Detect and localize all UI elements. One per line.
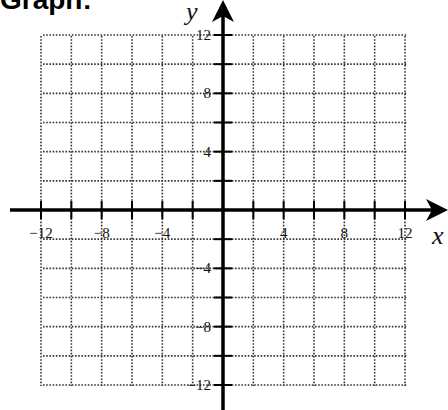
- x-tick-label: −12: [29, 225, 52, 241]
- y-tick-label: −4: [195, 260, 211, 276]
- y-tick-label: 4: [204, 144, 212, 160]
- axes: [10, 0, 448, 410]
- coordinate-plane: −12−8−448121284−4−8−12 x y: [0, 0, 448, 410]
- y-tick-label: −8: [195, 319, 211, 335]
- y-tick-label: −12: [188, 377, 211, 393]
- y-tick-label: 8: [204, 85, 212, 101]
- x-tick-label: 12: [398, 225, 413, 241]
- x-tick-label: 4: [280, 225, 288, 241]
- y-tick-label: 12: [196, 27, 211, 43]
- y-axis-label: y: [183, 0, 198, 26]
- x-axis-label: x: [431, 221, 444, 250]
- x-tick-label: −8: [94, 225, 110, 241]
- x-tick-label: −4: [154, 225, 170, 241]
- x-tick-label: 8: [341, 225, 349, 241]
